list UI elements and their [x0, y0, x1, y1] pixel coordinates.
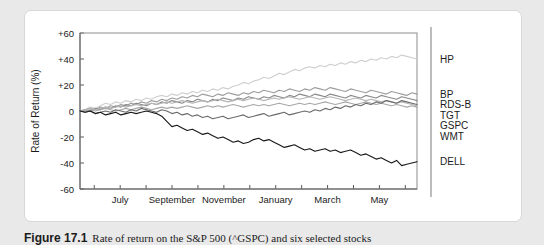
figure-caption-number: Figure 17.1	[24, 231, 87, 245]
chart-legend: HPBPRDS-BTGTGSPCWMTDELL	[431, 27, 471, 197]
x-tick-label: November	[202, 194, 246, 205]
x-axis: JulySeptemberNovemberJanuaryMarchMay	[94, 185, 405, 205]
y-tick-label: +60	[58, 28, 74, 39]
plot-frame	[80, 33, 417, 189]
legend-item-dell: DELL	[440, 156, 465, 167]
y-tick-label: -60	[60, 184, 74, 195]
legend-item-gspc: GSPC	[440, 120, 468, 131]
x-tick-label: January	[259, 194, 293, 205]
figure-panel: +60+40+200-20-40-60 JulySeptemberNovembe…	[24, 10, 522, 222]
figure-caption: Figure 17.1Rate of return on the S&P 500…	[24, 231, 524, 245]
series-lines	[80, 55, 417, 166]
legend-item-bp: BP	[440, 89, 454, 100]
x-tick-label: September	[149, 194, 195, 205]
x-tick-label: March	[314, 194, 340, 205]
y-axis-title: Rate of Return (%)	[30, 69, 41, 152]
legend-item-rds-b: RDS-B	[440, 99, 471, 110]
x-tick-label: July	[112, 194, 129, 205]
x-tick-label: May	[370, 194, 388, 205]
rate-of-return-line-chart: +60+40+200-20-40-60 JulySeptemberNovembe…	[25, 11, 522, 222]
legend-item-wmt: WMT	[440, 131, 464, 142]
figure-caption-text: Rate of return on the S&P 500 (^GSPC) an…	[92, 232, 371, 244]
series-line-dell	[80, 111, 417, 166]
y-tick-label: +20	[58, 80, 74, 91]
y-tick-label: 0	[69, 106, 74, 117]
y-tick-label: +40	[58, 54, 74, 65]
legend-item-tgt: TGT	[440, 110, 460, 121]
y-tick-label: -40	[60, 158, 74, 169]
y-tick-label: -20	[60, 132, 74, 143]
legend-item-hp: HP	[440, 54, 454, 65]
